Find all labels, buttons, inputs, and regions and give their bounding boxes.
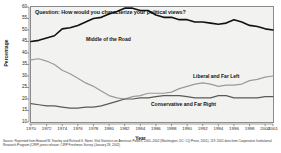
source-note: Source: Reprinted from Howard W. Stanley… [3, 139, 278, 147]
series-label-middle-of-the-road: Middle of the Road [86, 36, 131, 42]
series-label-conservative-and-far-right: Conservative and Far Right [151, 101, 216, 107]
series-line [31, 8, 273, 41]
chart-figure: Question: How would you characterize you… [0, 0, 281, 153]
series-label-liberal-and-far-left: Liberal and Far Left [193, 73, 239, 79]
